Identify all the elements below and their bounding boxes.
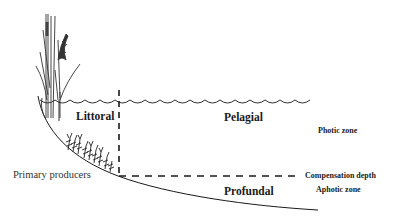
aphotic-zone-label: Aphotic zone <box>316 186 361 194</box>
compensation-depth-label: Compensation depth <box>305 172 376 180</box>
pelagial-label: Pelagial <box>224 112 263 124</box>
water-surface-icon <box>40 100 310 103</box>
photic-zone-label: Photic zone <box>318 127 357 135</box>
primary-producers-label: Primary producers <box>13 170 91 181</box>
littoral-label: Littoral <box>76 111 114 123</box>
profundal-label: Profundal <box>224 186 274 198</box>
lake-zonation-diagram: Littoral Pelagial Photic zone Compensati… <box>0 0 400 218</box>
